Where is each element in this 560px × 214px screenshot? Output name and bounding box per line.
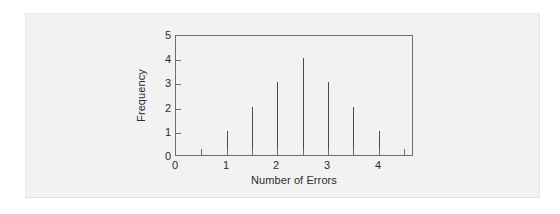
page-background: 012345 01234 Frequency Number of Errors xyxy=(0,0,560,214)
x-axis-tick xyxy=(328,149,329,155)
y-axis-tick xyxy=(176,84,181,85)
x-axis-tick-label: 0 xyxy=(172,160,178,171)
y-axis-tick-label: 3 xyxy=(165,78,171,89)
frequency-distribution-chart: 012345 01234 Frequency Number of Errors xyxy=(26,14,541,199)
plot-area xyxy=(175,35,413,156)
spike-bar xyxy=(328,82,329,155)
x-axis-tick xyxy=(227,149,228,155)
y-axis-tick-label: 5 xyxy=(165,30,171,41)
x-axis-tick xyxy=(404,149,405,155)
x-axis-tick-label: 3 xyxy=(324,160,330,171)
y-axis-tick xyxy=(176,133,181,134)
figure-card: 012345 01234 Frequency Number of Errors xyxy=(25,13,540,198)
y-axis-tick-label: 0 xyxy=(165,151,171,162)
x-axis-title: Number of Errors xyxy=(175,174,413,186)
y-axis-tick-label: 4 xyxy=(165,54,171,65)
x-axis-tick-label: 1 xyxy=(223,160,229,171)
x-axis-tick xyxy=(201,149,202,155)
spike-bar xyxy=(252,107,253,155)
x-axis-tick xyxy=(353,149,354,155)
x-axis-tick xyxy=(379,149,380,155)
spike-bar xyxy=(303,58,304,155)
y-axis-title: Frequency xyxy=(134,35,148,156)
y-axis-tick-label: 1 xyxy=(165,127,171,138)
x-axis-tick-labels: 01234 xyxy=(175,160,413,174)
x-axis-tick xyxy=(277,149,278,155)
x-axis-tick xyxy=(303,149,304,155)
y-axis-tick-label: 2 xyxy=(165,103,171,114)
spike-bar xyxy=(277,82,278,155)
y-axis-tick xyxy=(176,60,181,61)
y-axis-tick xyxy=(176,109,181,110)
y-axis-tick-labels: 012345 xyxy=(159,35,171,156)
spike-bar xyxy=(353,107,354,155)
x-axis-tick-label: 4 xyxy=(375,160,381,171)
x-axis-tick xyxy=(252,149,253,155)
x-axis-tick-label: 2 xyxy=(273,160,279,171)
